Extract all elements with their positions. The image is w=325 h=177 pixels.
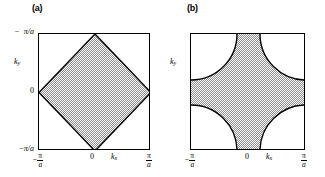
panel-b-xtick-pi-over-a: πa <box>295 152 313 168</box>
panel-a-plot-box <box>38 33 150 150</box>
panel-a-xaxis-title: kx <box>111 153 117 161</box>
panel-a-xtick-zero: 0 <box>84 153 100 161</box>
panel-b-fermi-sea-region <box>191 34 305 150</box>
panel-a-xtick-neg-pi-over-a: −πa <box>26 152 50 168</box>
panel-b-label: (b) <box>187 3 198 13</box>
panel-a-diamond-region <box>39 34 150 150</box>
panel-b-xtick-zero: 0 <box>239 153 255 161</box>
panel-b-plot-box <box>190 33 305 150</box>
panel-b-xaxis-title: kx <box>266 153 272 161</box>
brillouin-zone-diamond <box>39 34 150 150</box>
panel-a-yaxis-title: ky <box>14 58 20 66</box>
fermi-sea-shaded-area <box>191 34 305 150</box>
panel-a-ytick-zero: 0 <box>6 87 34 95</box>
panel-a: (a) −−π/a ky 0 <box>0 0 163 177</box>
panel-b: (b) <box>163 0 325 177</box>
panel-a-ytick-pi-over-a: −−π/a <box>6 28 34 36</box>
figure-brillouin-zone: (a) −−π/a ky 0 <box>0 0 325 177</box>
panel-b-xtick-neg-pi-over-a: −πa <box>178 152 202 168</box>
panel-a-label: (a) <box>32 3 42 13</box>
panel-b-yaxis-title: ky <box>170 58 176 66</box>
panel-a-xtick-pi-over-a: πa <box>140 152 158 168</box>
